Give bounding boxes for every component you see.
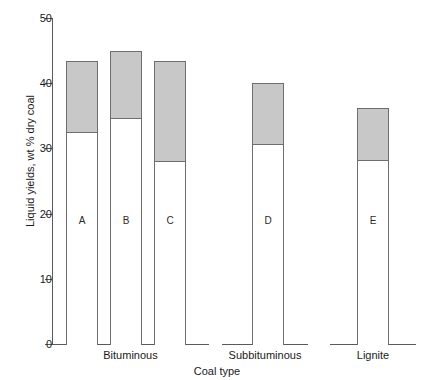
- x-axis-title: Coal type: [0, 365, 434, 377]
- bar-a-label: A: [67, 215, 97, 226]
- bar-d-upper-segment: [252, 83, 284, 145]
- bar-a-upper-segment: [66, 61, 98, 133]
- y-tick-label-10: 10: [12, 274, 52, 284]
- y-tick-40: 40: [0, 83, 52, 84]
- bar-b: B: [110, 51, 142, 345]
- y-tick-30: 30: [0, 148, 52, 149]
- bar-b-upper-segment: [110, 51, 142, 119]
- bar-d: D: [252, 83, 284, 345]
- bar-c-label: C: [155, 215, 185, 226]
- bar-a: A: [66, 61, 98, 345]
- y-axis-line: [52, 18, 53, 344]
- y-tick-label-30: 30: [12, 143, 52, 153]
- y-tick-0: 0: [0, 344, 52, 345]
- group-label-bituminous: Bituminous: [52, 349, 209, 361]
- y-tick-50: 50: [0, 18, 52, 19]
- y-tick-label-40: 40: [12, 78, 52, 88]
- y-tick-label-20: 20: [12, 209, 52, 219]
- group-label-subbituminous: Subbituminous: [222, 349, 308, 361]
- y-tick-10: 10: [0, 279, 52, 280]
- bar-e: E: [357, 108, 389, 345]
- bar-e-label: E: [358, 215, 388, 226]
- y-tick-label-0: 0: [12, 339, 52, 349]
- bar-d-label: D: [253, 215, 283, 226]
- bar-e-upper-segment: [357, 108, 389, 161]
- coal-liquid-yield-chart: Liquid yields, wt % dry coal 50 40 30 20…: [0, 0, 434, 380]
- bar-c-upper-segment: [154, 61, 186, 162]
- group-label-lignite: Lignite: [330, 349, 416, 361]
- y-tick-20: 20: [0, 214, 52, 215]
- bar-c: C: [154, 61, 186, 345]
- y-tick-label-50: 50: [12, 13, 52, 23]
- bar-b-label: B: [111, 215, 141, 226]
